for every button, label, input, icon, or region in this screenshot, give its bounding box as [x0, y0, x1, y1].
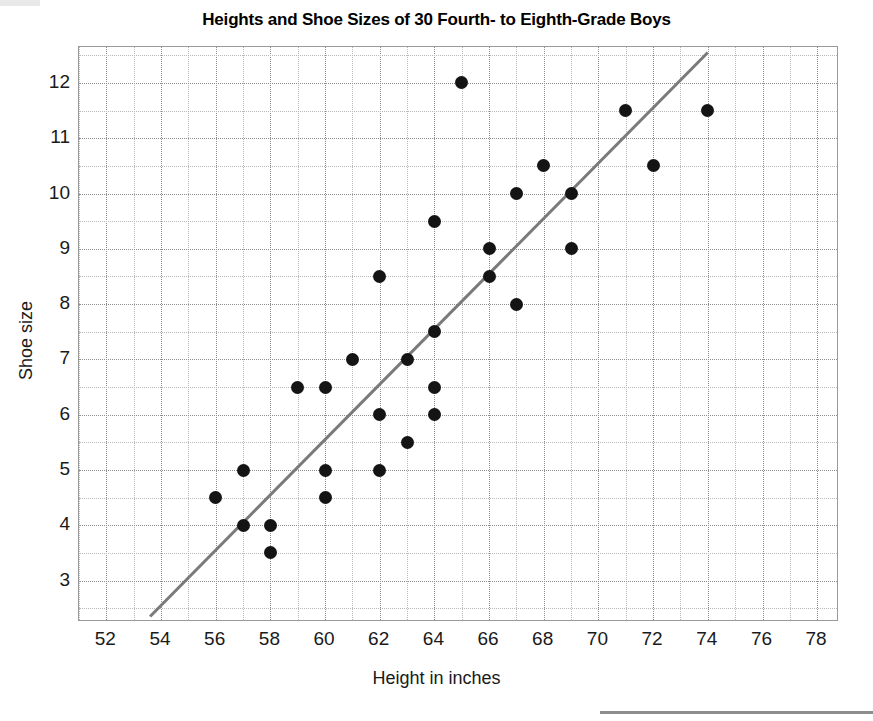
data-point	[237, 519, 250, 532]
y-tick-label: 3	[24, 569, 70, 591]
data-point	[401, 353, 414, 366]
y-tick-label: 6	[24, 403, 70, 425]
y-tick-label: 5	[24, 458, 70, 480]
data-point	[428, 408, 441, 421]
y-tick-label: 10	[24, 182, 70, 204]
data-point	[510, 187, 523, 200]
x-tick-label: 60	[294, 628, 354, 650]
x-tick-label: 58	[239, 628, 299, 650]
data-point	[346, 353, 359, 366]
trend-line	[79, 47, 839, 622]
y-tick-label: 12	[24, 71, 70, 93]
x-tick-label: 76	[732, 628, 792, 650]
x-tick-label: 52	[75, 628, 135, 650]
chart-page: Heights and Shoe Sizes of 30 Fourth- to …	[0, 0, 873, 721]
chart-title: Heights and Shoe Sizes of 30 Fourth- to …	[0, 10, 873, 30]
x-tick-label: 62	[349, 628, 409, 650]
data-point	[373, 464, 386, 477]
plot-area	[78, 46, 838, 621]
data-point	[428, 325, 441, 338]
data-point	[565, 187, 578, 200]
x-tick-label: 66	[458, 628, 518, 650]
y-tick-label: 9	[24, 237, 70, 259]
x-axis-tick-labels: 5254565860626466687072747678	[78, 628, 838, 660]
data-point	[565, 242, 578, 255]
x-tick-label: 78	[786, 628, 846, 650]
x-axis-title: Height in inches	[0, 668, 873, 689]
data-point	[319, 464, 332, 477]
data-point	[428, 381, 441, 394]
data-point	[237, 464, 250, 477]
data-point	[483, 242, 496, 255]
data-point	[264, 519, 277, 532]
data-point	[319, 381, 332, 394]
data-point	[647, 159, 660, 172]
data-point	[510, 298, 523, 311]
x-tick-label: 64	[403, 628, 463, 650]
x-tick-label: 54	[130, 628, 190, 650]
y-tick-label: 4	[24, 513, 70, 535]
y-tick-label: 11	[24, 126, 70, 148]
data-point	[319, 491, 332, 504]
data-point	[428, 215, 441, 228]
footer-rule	[600, 711, 873, 714]
data-point	[401, 436, 414, 449]
y-axis-tick-labels: 3456789101112	[14, 46, 70, 621]
y-tick-label: 8	[24, 292, 70, 314]
data-point	[291, 381, 304, 394]
x-tick-label: 56	[185, 628, 245, 650]
x-tick-label: 72	[622, 628, 682, 650]
page-corner-mark	[0, 0, 40, 6]
data-point	[483, 270, 496, 283]
y-tick-label: 7	[24, 347, 70, 369]
x-tick-label: 74	[677, 628, 737, 650]
data-point	[373, 270, 386, 283]
x-tick-label: 68	[513, 628, 573, 650]
x-tick-label: 70	[567, 628, 627, 650]
